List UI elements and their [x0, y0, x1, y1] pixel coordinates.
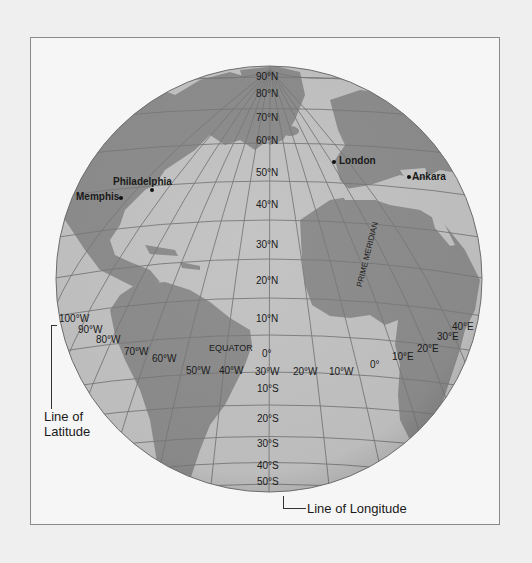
lat-label-40s: 40°S [257, 461, 279, 471]
latitude-callout-line2: Latitude [44, 425, 90, 440]
lat-label-50n: 50°N [256, 168, 278, 178]
lon-label-40e: 40°E [452, 322, 474, 332]
lat-label-20s: 20°S [257, 414, 279, 424]
lat-label-10n: 10°N [256, 314, 278, 324]
london-marker [332, 160, 336, 164]
lat-label-20n: 20°N [256, 276, 278, 286]
lat-label-0: 0° [262, 349, 272, 359]
lon-label-20e: 20°E [417, 344, 439, 354]
lat-label-80n: 80°N [256, 89, 278, 99]
city-london: London [339, 156, 376, 166]
lon-label-50w: 50°W [186, 366, 211, 376]
lon-label-30e: 30°E [437, 332, 459, 342]
latitude-callout-line1: Line of [44, 410, 90, 425]
longitude-leader-line [283, 496, 306, 509]
lat-label-30n: 30°N [256, 240, 278, 250]
equator-label: EQUATOR [209, 344, 253, 353]
memphis-marker [119, 196, 123, 200]
lat-label-10s: 10°S [257, 384, 279, 394]
lon-label-100w: 100°W [59, 314, 89, 324]
lat-label-50s: 50°S [257, 477, 279, 487]
lat-label-90n: 90°N [256, 72, 278, 82]
lat-label-40n: 40°N [256, 200, 278, 210]
latitude-callout: Line of Latitude [44, 410, 90, 440]
lon-label-60w: 60°W [152, 354, 177, 364]
lon-label-10e: 10°E [392, 352, 414, 362]
lon-label-30w: 30°W [255, 367, 280, 377]
lat-label-60n: 60°N [256, 136, 278, 146]
lon-label-0: 0° [370, 360, 380, 370]
city-philadelphia: Philadelphia [113, 177, 172, 187]
city-ankara: Ankara [412, 172, 446, 182]
city-memphis: Memphis [76, 192, 119, 202]
lon-label-10w: 10°W [329, 367, 354, 377]
lat-label-30s: 30°S [257, 439, 279, 449]
philadelphia-marker [150, 188, 154, 192]
longitude-callout: Line of Longitude [307, 502, 407, 517]
lat-label-70n: 70°N [256, 113, 278, 123]
ankara-marker [407, 175, 411, 179]
lon-label-80w: 80°W [96, 335, 121, 345]
lon-label-20w: 20°W [293, 367, 318, 377]
lon-label-40w: 40°W [219, 366, 244, 376]
latitude-leader-line [51, 325, 57, 409]
lon-label-70w: 70°W [124, 347, 149, 357]
